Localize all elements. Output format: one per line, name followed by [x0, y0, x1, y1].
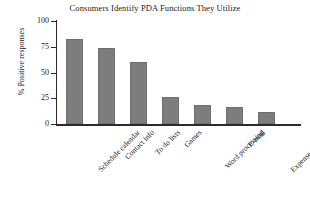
bar — [258, 112, 275, 124]
y-tick-label: 75 — [27, 43, 49, 51]
y-tick-label: 0 — [27, 120, 49, 128]
y-tick-label: 25 — [27, 94, 49, 102]
bar — [98, 48, 115, 124]
bar — [226, 107, 243, 125]
y-axis-tick-labels: 0255075100 — [25, 0, 49, 201]
x-tick-label: To do lists — [153, 128, 182, 157]
y-axis-title: % Positive responses — [17, 14, 26, 110]
x-tick-label: Word processing — [222, 128, 264, 170]
x-tick-label: Games — [182, 128, 203, 149]
y-tick-mark — [51, 124, 57, 125]
y-tick-label: 50 — [27, 69, 49, 77]
x-tick-label: E-mail — [246, 128, 267, 149]
bar-chart: Consumers Identify PDA Functions They Ut… — [0, 0, 310, 201]
plot-area — [57, 21, 300, 124]
bar — [66, 39, 83, 124]
y-tick-label: 100 — [27, 17, 49, 25]
bar — [194, 105, 211, 124]
bar — [162, 97, 179, 124]
bar — [130, 62, 147, 124]
x-tick-label: Contact info — [123, 128, 156, 161]
x-tick-label: Expense programs — [288, 128, 310, 174]
x-axis-line — [56, 124, 301, 126]
x-tick-label: Schedule calendar — [96, 128, 142, 174]
